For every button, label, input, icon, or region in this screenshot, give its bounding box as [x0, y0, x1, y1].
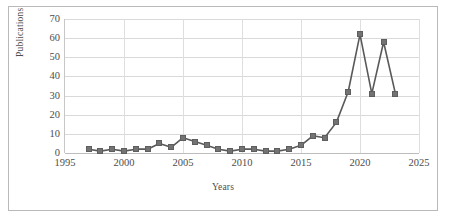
data-point-2004	[168, 144, 174, 150]
plot-area: 010203040506070 199520002005201020152020…	[64, 19, 419, 153]
data-point-2000	[121, 148, 127, 154]
data-point-2008	[215, 146, 221, 152]
gridline-y-0	[65, 153, 419, 154]
x-tick-1995: 1995	[55, 158, 76, 169]
y-tick-10: 10	[50, 129, 61, 140]
data-point-2009	[227, 148, 233, 154]
y-tick-20: 20	[50, 109, 61, 120]
data-point-1997	[86, 146, 92, 152]
data-point-2010	[239, 146, 245, 152]
data-point-2018	[333, 119, 339, 125]
data-point-2011	[251, 146, 257, 152]
data-point-2001	[133, 146, 139, 152]
data-point-2015	[298, 142, 304, 148]
x-tick-2000: 2000	[114, 158, 135, 169]
data-point-1999	[109, 146, 115, 152]
data-point-1998	[97, 148, 103, 154]
data-point-2002	[145, 146, 151, 152]
x-tick-2005: 2005	[173, 158, 194, 169]
data-point-2021	[369, 91, 375, 97]
x-tick-2010: 2010	[232, 158, 253, 169]
data-point-2005	[180, 135, 186, 141]
data-point-2023	[392, 91, 398, 97]
data-point-2019	[345, 89, 351, 95]
x-tick-2025: 2025	[409, 158, 430, 169]
y-tick-60: 60	[50, 33, 61, 44]
gridline-x-2025	[419, 19, 420, 153]
data-point-2013	[274, 148, 280, 154]
y-tick-50: 50	[50, 52, 61, 63]
data-point-2017	[322, 135, 328, 141]
data-point-2014	[286, 146, 292, 152]
y-tick-30: 30	[50, 90, 61, 101]
data-point-2007	[204, 142, 210, 148]
data-point-2020	[357, 31, 363, 37]
series-line	[65, 19, 419, 153]
data-point-2012	[263, 148, 269, 154]
y-tick-40: 40	[50, 71, 61, 82]
x-tick-2020: 2020	[350, 158, 371, 169]
data-point-2016	[310, 133, 316, 139]
y-axis-title: Publications	[15, 43, 25, 57]
data-point-2003	[156, 140, 162, 146]
chart-figure: Publications 010203040506070 19952000200…	[8, 6, 438, 211]
x-tick-2015: 2015	[291, 158, 312, 169]
y-tick-70: 70	[50, 14, 61, 25]
x-axis-title: Years	[9, 182, 437, 192]
data-point-2022	[381, 39, 387, 45]
data-point-2006	[192, 139, 198, 145]
